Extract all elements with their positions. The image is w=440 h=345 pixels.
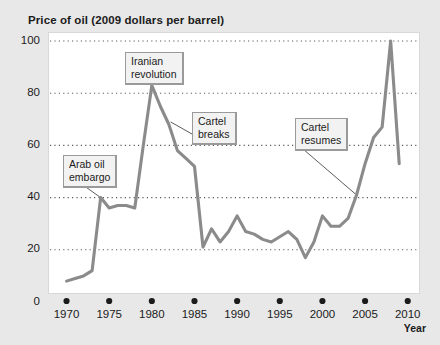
annotation-text-line: breaks: [198, 128, 230, 141]
annotation-text-line: revolution: [131, 68, 177, 81]
x-tick-label: 1970: [45, 308, 89, 320]
x-tick-dot: [362, 298, 368, 304]
x-tick-dot: [63, 298, 69, 304]
y-tick-label: 60: [6, 138, 40, 150]
y-tick-label: 0: [6, 295, 40, 307]
x-tick-dot: [234, 298, 240, 304]
x-tick-label: 2010: [386, 308, 430, 320]
y-tick-label: 100: [6, 34, 40, 46]
xtick-dot-markers: [63, 298, 410, 304]
annotation-iranian-revolution: Iranianrevolution: [125, 52, 184, 85]
x-tick-label: 2005: [343, 308, 387, 320]
x-axis-title: Year: [404, 322, 426, 334]
annotation-text-line: resumes: [301, 134, 341, 147]
x-tick-dot: [405, 298, 411, 304]
leader-line-cartel-breaks: [171, 122, 192, 134]
annotation-text-line: Arab oil: [69, 158, 110, 171]
y-tick-label: 80: [6, 86, 40, 98]
x-tick-label: 1985: [172, 308, 216, 320]
x-tick-label: 1990: [215, 308, 259, 320]
annotation-text-line: embargo: [69, 171, 110, 184]
x-tick-dot: [191, 298, 197, 304]
x-tick-dot: [277, 298, 283, 304]
y-tick-label: 40: [6, 190, 40, 202]
annotation-text-line: Cartel: [198, 115, 230, 128]
x-tick-label: 2000: [300, 308, 344, 320]
annotation-text-line: Iranian: [131, 55, 177, 68]
x-tick-label: 1975: [87, 308, 131, 320]
annotation-arab-oil-embargo: Arab oilembargo: [63, 155, 117, 188]
y-tick-label: 20: [6, 242, 40, 254]
annotation-text-line: Cartel: [301, 121, 341, 134]
annotation-cartel-resumes: Cartelresumes: [295, 118, 348, 151]
x-tick-dot: [149, 298, 155, 304]
x-tick-label: 1995: [258, 308, 302, 320]
gridlines-group: [50, 41, 417, 250]
x-tick-label: 1980: [130, 308, 174, 320]
x-tick-dot: [319, 298, 325, 304]
annotation-cartel-breaks: Cartelbreaks: [192, 112, 237, 145]
oil-price-chart-figure: Price of oil (2009 dollars per barrel) 0…: [0, 0, 440, 345]
leader-line-cartel-resumes: [303, 149, 357, 195]
x-tick-dot: [106, 298, 112, 304]
